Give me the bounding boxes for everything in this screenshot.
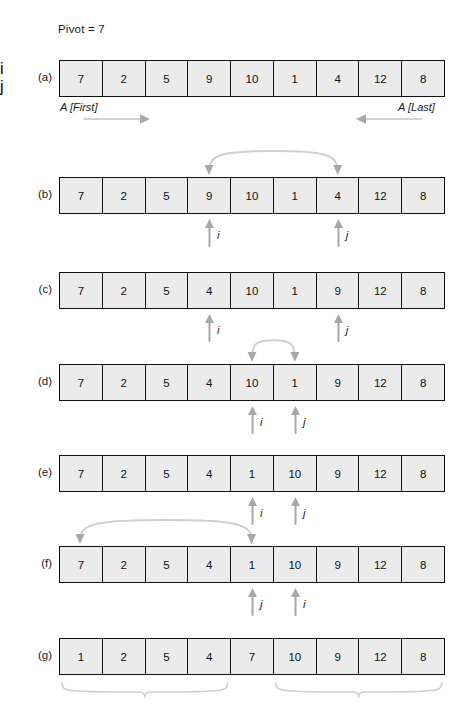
swap-arc: [66, 517, 266, 547]
row-label: (b): [18, 188, 52, 200]
array-cell: 10: [231, 61, 274, 96]
array-cell: 7: [60, 178, 103, 213]
array-cell: 8: [402, 61, 444, 96]
array-cell: 8: [402, 178, 444, 213]
index-pointer-j: j: [333, 313, 359, 347]
array-cell: 4: [188, 365, 231, 400]
array-cell: 12: [359, 365, 402, 400]
sweep-arrow-i: [82, 111, 154, 127]
index-pointer-i: i: [204, 218, 230, 252]
up-arrow-icon: [290, 587, 302, 617]
index-pointer-j: j: [333, 218, 359, 252]
array-cell: 1: [274, 178, 317, 213]
array: 72591014128: [59, 177, 445, 214]
array-cell: 2: [103, 178, 146, 213]
array-cell: 4: [317, 178, 360, 213]
partition-brace: [275, 681, 443, 701]
index-pointer-label: i: [260, 416, 263, 428]
array: 12547109128: [59, 638, 445, 675]
index-pointer-label: j: [303, 507, 306, 519]
array-cell: 7: [231, 639, 274, 674]
up-arrow-icon: [333, 313, 345, 343]
row-label: (c): [18, 283, 52, 295]
index-pointer-label: j: [346, 324, 349, 336]
array-cell: 9: [188, 61, 231, 96]
array-cell: 10: [274, 456, 317, 491]
array-cell: 2: [103, 273, 146, 308]
array: 72541109128: [59, 455, 445, 492]
array-cell: 2: [103, 456, 146, 491]
index-pointer-j: j: [247, 587, 273, 621]
array-cell: 9: [317, 456, 360, 491]
array-cell: 2: [103, 365, 146, 400]
sweep-arrow-j: [352, 111, 424, 127]
up-arrow-icon: [290, 496, 302, 526]
row-label: (d): [18, 375, 52, 387]
index-pointer-label: i: [217, 229, 220, 241]
array-cell: 2: [103, 547, 146, 582]
index-pointer-label: j: [303, 416, 306, 428]
array-cell: 4: [188, 456, 231, 491]
array-cell: 7: [60, 547, 103, 582]
array-cell: 1: [274, 365, 317, 400]
up-arrow-icon: [290, 405, 302, 435]
array-cell: 4: [188, 547, 231, 582]
array-cell: 9: [317, 365, 360, 400]
array-cell: 5: [146, 273, 189, 308]
array-cell: 12: [359, 456, 402, 491]
index-pointer-label: j: [260, 598, 263, 610]
array-cell: 10: [274, 547, 317, 582]
array-cell: 1: [274, 273, 317, 308]
array-cell: 4: [188, 639, 231, 674]
array-cell: 7: [60, 456, 103, 491]
array-cell: 7: [60, 61, 103, 96]
index-pointer-j: j: [290, 496, 316, 530]
array-cell: 8: [402, 547, 444, 582]
array-cell: 8: [402, 273, 444, 308]
array-cell: 9: [317, 639, 360, 674]
row-label: (e): [18, 466, 52, 478]
array-cell: 12: [359, 61, 402, 96]
array-cell: 12: [359, 273, 402, 308]
row-label: (g): [18, 649, 52, 661]
array-cell: 1: [231, 547, 274, 582]
quicksort-partition-figure: Pivot = 7 (a)72591014128A [First]A [Last…: [0, 0, 468, 716]
array-cell: 5: [146, 365, 189, 400]
swap-arc: [195, 148, 352, 178]
array-cell: 9: [317, 547, 360, 582]
array-cell: 9: [188, 178, 231, 213]
pivot-label: Pivot = 7: [58, 23, 105, 35]
array-cell: 5: [146, 639, 189, 674]
index-pointer-i: i: [290, 587, 316, 621]
array-cell: 5: [146, 547, 189, 582]
array-cell: 8: [402, 456, 444, 491]
array-cell: 10: [231, 273, 274, 308]
array-cell: 4: [317, 61, 360, 96]
array-cell: 2: [103, 639, 146, 674]
swap-arc: [238, 335, 309, 365]
array-cell: 7: [60, 273, 103, 308]
up-arrow-icon: [204, 313, 216, 343]
array-cell: 4: [188, 273, 231, 308]
array: 72541109128: [59, 546, 445, 583]
index-pointer-label: j: [346, 229, 349, 241]
row-label: (a): [18, 71, 52, 83]
index-pointer-label: i: [303, 598, 306, 610]
index-pointer-i: i: [247, 405, 273, 439]
up-arrow-icon: [247, 587, 259, 617]
array-cell: 12: [359, 178, 402, 213]
up-arrow-icon: [247, 405, 259, 435]
index-pointer-j: j: [290, 405, 316, 439]
array: 72541019128: [59, 364, 445, 401]
array-cell: 10: [231, 365, 274, 400]
array-cell: 12: [359, 547, 402, 582]
up-arrow-icon: [333, 218, 345, 248]
array-cell: 5: [146, 178, 189, 213]
index-pointer-i: i: [204, 313, 230, 347]
array-cell: 10: [274, 639, 317, 674]
partition-brace: [61, 681, 229, 701]
array-cell: 9: [317, 273, 360, 308]
row-label: (f): [18, 557, 52, 569]
array: 72591014128: [59, 60, 445, 97]
array-cell: 5: [146, 456, 189, 491]
